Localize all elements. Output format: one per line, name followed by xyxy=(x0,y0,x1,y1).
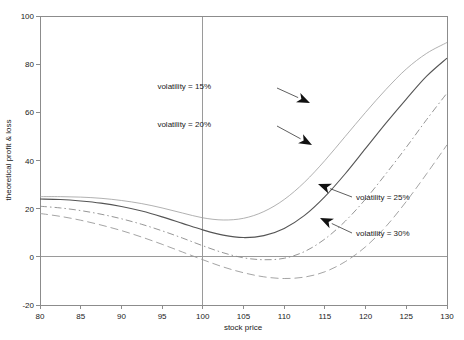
x-tick-label: 95 xyxy=(158,312,167,321)
y-tick-label: 0 xyxy=(30,253,35,262)
x-tick-label: 100 xyxy=(196,312,210,321)
x-tick-label: 125 xyxy=(400,312,414,321)
y-axis-title: theoretical profit & loss xyxy=(4,120,13,201)
y-tick-label: 80 xyxy=(25,60,34,69)
x-tick-label: 90 xyxy=(117,312,126,321)
x-tick-label: 120 xyxy=(359,312,373,321)
annotation-label: volatility = 20% xyxy=(157,120,211,129)
y-tick-label: 60 xyxy=(25,108,34,117)
y-tick-label: -20 xyxy=(22,301,34,310)
annotation-label: volatility = 25% xyxy=(356,193,410,202)
y-tick-label: 100 xyxy=(21,12,35,21)
x-tick-label: 110 xyxy=(278,312,291,321)
x-tick-label: 115 xyxy=(319,312,332,321)
x-tick-label: 80 xyxy=(36,312,45,321)
y-tick-label: 20 xyxy=(25,205,34,214)
x-axis-title: stock price xyxy=(224,323,263,332)
x-tick-label: 130 xyxy=(440,312,454,321)
x-tick-label: 85 xyxy=(76,312,85,321)
annotation-label: volatility = 15% xyxy=(157,82,211,91)
x-tick-label: 105 xyxy=(237,312,251,321)
y-tick-label: 40 xyxy=(25,157,34,166)
annotation-label: volatility = 30% xyxy=(356,229,410,238)
profit-loss-line-chart: -200204060801008085909510010511011512012… xyxy=(0,0,464,340)
chart-background xyxy=(0,0,464,340)
chart-container: -200204060801008085909510010511011512012… xyxy=(0,0,464,340)
